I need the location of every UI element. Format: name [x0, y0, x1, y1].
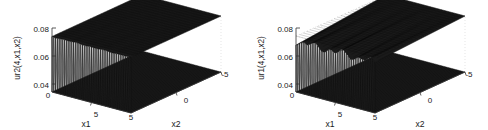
figure-canvas: 0.08 0.06 0.04 0 5 5 0 -5 x1 x2 ur2(4,x1…: [0, 0, 488, 130]
z-tick-1-left: 0.06: [33, 53, 49, 62]
x-axis-label-right: x1: [325, 119, 334, 129]
x-tick-0-left: 0: [46, 91, 51, 100]
plot-panel-left: 0.08 0.06 0.04 0 5 5 0 -5 x1 x2 ur2(4,x1…: [0, 0, 244, 130]
plot-svg-left: 0.08 0.06 0.04 0 5 5 0 -5 x1 x2 ur2(4,x1…: [0, 0, 244, 130]
z-axis-label-left: ur2(4,x1,x2): [13, 36, 22, 80]
y-tick-0-left: 5: [129, 113, 134, 122]
y-tick-1-right: 0: [428, 96, 433, 105]
x-tick-1-left: 5: [94, 110, 99, 119]
x-tick-1-right: 5: [338, 110, 343, 119]
z-tick-0-right: 0.08: [277, 25, 293, 34]
y-axis-label-right: x2: [415, 119, 424, 129]
z-tick-2-right: 0.04: [277, 81, 293, 90]
y-tick-0-right: 5: [373, 113, 378, 122]
x-tick-0-right: 0: [290, 91, 295, 100]
y-axis-label-left: x2: [171, 119, 180, 129]
z-tick-2-left: 0.04: [33, 81, 49, 90]
y-tick-2-left: -5: [221, 70, 229, 79]
x-axis-label-left: x1: [81, 119, 90, 129]
y-tick-1-left: 0: [184, 96, 189, 105]
z-tick-1-right: 0.06: [277, 53, 293, 62]
y-tick-2-right: -5: [465, 70, 473, 79]
z-tick-0-left: 0.08: [33, 25, 49, 34]
plot-svg-right: 0.08 0.06 0.04 0 5 5 0 -5 x1 x2 ur1(4,x1…: [244, 0, 488, 130]
z-axis-label-right: ur1(4,x1,x2): [257, 36, 266, 80]
plot-panel-right: 0.08 0.06 0.04 0 5 5 0 -5 x1 x2 ur1(4,x1…: [244, 0, 488, 130]
